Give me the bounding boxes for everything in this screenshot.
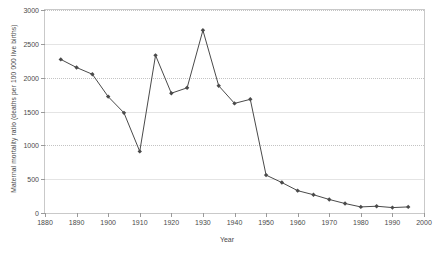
data-point-1930 [201, 28, 205, 32]
x-tick-1900 [108, 213, 109, 217]
data-series [45, 10, 424, 213]
x-tick-label-1890: 1890 [69, 219, 85, 226]
series-line [61, 30, 408, 207]
x-tick-label-1930: 1930 [195, 219, 211, 226]
x-tick-1970 [329, 213, 330, 217]
x-tick-label-1880: 1880 [37, 219, 53, 226]
maternal-mortality-line-chart: Maternal mortality ratio (deaths per 100… [0, 0, 444, 254]
x-tick-1960 [298, 213, 299, 217]
y-tick-label-1500: 1500 [23, 108, 39, 115]
y-tick-label-500: 500 [27, 176, 39, 183]
x-tick-1990 [392, 213, 393, 217]
data-point-1955 [280, 180, 284, 184]
x-tick-label-2000: 2000 [416, 219, 432, 226]
x-tick-label-1980: 1980 [353, 219, 369, 226]
data-point-1970 [327, 197, 331, 201]
plot-area: 050010001500200025003000 188018901900191… [44, 9, 425, 214]
x-tick-label-1970: 1970 [321, 219, 337, 226]
y-axis-title: Maternal mortality ratio (deaths per 100… [10, 9, 17, 209]
x-tick-label-1920: 1920 [164, 219, 180, 226]
x-tick-label-1950: 1950 [258, 219, 274, 226]
x-tick-2000 [424, 213, 425, 217]
y-tick-label-0: 0 [35, 210, 39, 217]
x-axis-title-text: Year [220, 236, 234, 243]
data-point-1890 [74, 65, 78, 69]
data-point-1990 [390, 205, 394, 209]
y-tick-label-1000: 1000 [23, 142, 39, 149]
x-axis-title: Year [0, 236, 444, 243]
data-point-1885 [59, 57, 63, 61]
data-point-1920 [169, 91, 173, 95]
x-tick-label-1960: 1960 [290, 219, 306, 226]
data-point-1925 [185, 86, 189, 90]
data-point-1950 [264, 173, 268, 177]
x-tick-1950 [266, 213, 267, 217]
x-tick-label-1940: 1940 [227, 219, 243, 226]
x-tick-1910 [140, 213, 141, 217]
x-tick-1920 [171, 213, 172, 217]
data-point-1975 [343, 201, 347, 205]
data-point-1945 [248, 97, 252, 101]
x-tick-label-1910: 1910 [132, 219, 148, 226]
data-point-1985 [374, 204, 378, 208]
x-tick-1940 [235, 213, 236, 217]
data-point-1965 [311, 193, 315, 197]
data-point-1915 [153, 53, 157, 57]
x-tick-1890 [77, 213, 78, 217]
x-tick-label-1900: 1900 [100, 219, 116, 226]
y-tick-label-2000: 2000 [23, 74, 39, 81]
y-tick-label-3000: 3000 [23, 7, 39, 14]
data-point-1910 [138, 149, 142, 153]
data-point-1995 [406, 205, 410, 209]
x-tick-1880 [45, 213, 46, 217]
data-point-1980 [359, 205, 363, 209]
x-tick-1980 [361, 213, 362, 217]
y-tick-label-2500: 2500 [23, 40, 39, 47]
data-point-1960 [295, 188, 299, 192]
x-tick-1930 [203, 213, 204, 217]
x-tick-label-1990: 1990 [385, 219, 401, 226]
